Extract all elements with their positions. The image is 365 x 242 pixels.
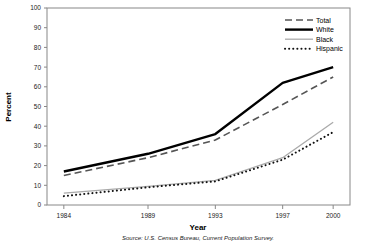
x-tick-label: 2000	[326, 212, 341, 219]
y-tick-label: 0	[37, 201, 41, 208]
legend-label-black: Black	[316, 36, 334, 43]
y-tick-label: 70	[34, 64, 42, 71]
y-tick-label: 90	[34, 24, 42, 31]
y-tick-label: 100	[30, 4, 41, 11]
x-tick-label: 1989	[141, 212, 156, 219]
y-tick-label: 40	[34, 123, 42, 130]
x-tick-label: 1993	[208, 212, 223, 219]
line-chart: 0102030405060708090100 19841989199319972…	[0, 0, 365, 242]
y-tick-label: 50	[34, 103, 42, 110]
y-axis-title: Percent	[4, 92, 13, 122]
legend-label-white: White	[316, 26, 334, 33]
y-tick-label: 10	[34, 182, 42, 189]
source-note: Source: U.S. Census Bureau, Current Popu…	[122, 235, 274, 241]
legend-label-total: Total	[316, 17, 331, 24]
y-tick-label: 20	[34, 162, 42, 169]
x-tick-label: 1984	[57, 212, 72, 219]
chart-figure: 0102030405060708090100 19841989199319972…	[0, 0, 365, 242]
legend-label-hispanic: Hispanic	[316, 45, 343, 53]
x-tick-label: 1997	[275, 212, 290, 219]
y-tick-label: 80	[34, 44, 42, 51]
y-tick-label: 30	[34, 142, 42, 149]
x-axis-title: Year	[190, 223, 207, 232]
y-tick-label: 60	[34, 83, 42, 90]
chart-legend: TotalWhiteBlackHispanic	[257, 11, 346, 53]
